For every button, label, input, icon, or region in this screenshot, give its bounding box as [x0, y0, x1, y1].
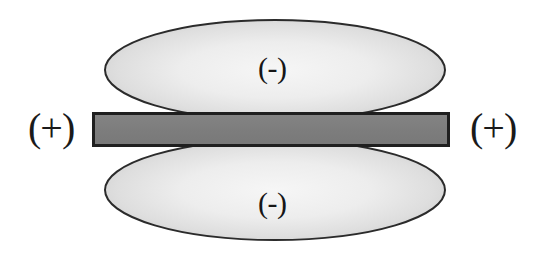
positive-charge-label-left: (+) — [28, 108, 74, 148]
positive-charge-label-right: (+) — [470, 108, 516, 148]
negative-charge-label-bottom: (-) — [258, 188, 286, 218]
orbital-diagram-figure: (+) (+) (-) (-) — [0, 0, 545, 254]
central-bar-rect — [94, 114, 449, 146]
negative-charge-label-top: (-) — [258, 53, 286, 83]
